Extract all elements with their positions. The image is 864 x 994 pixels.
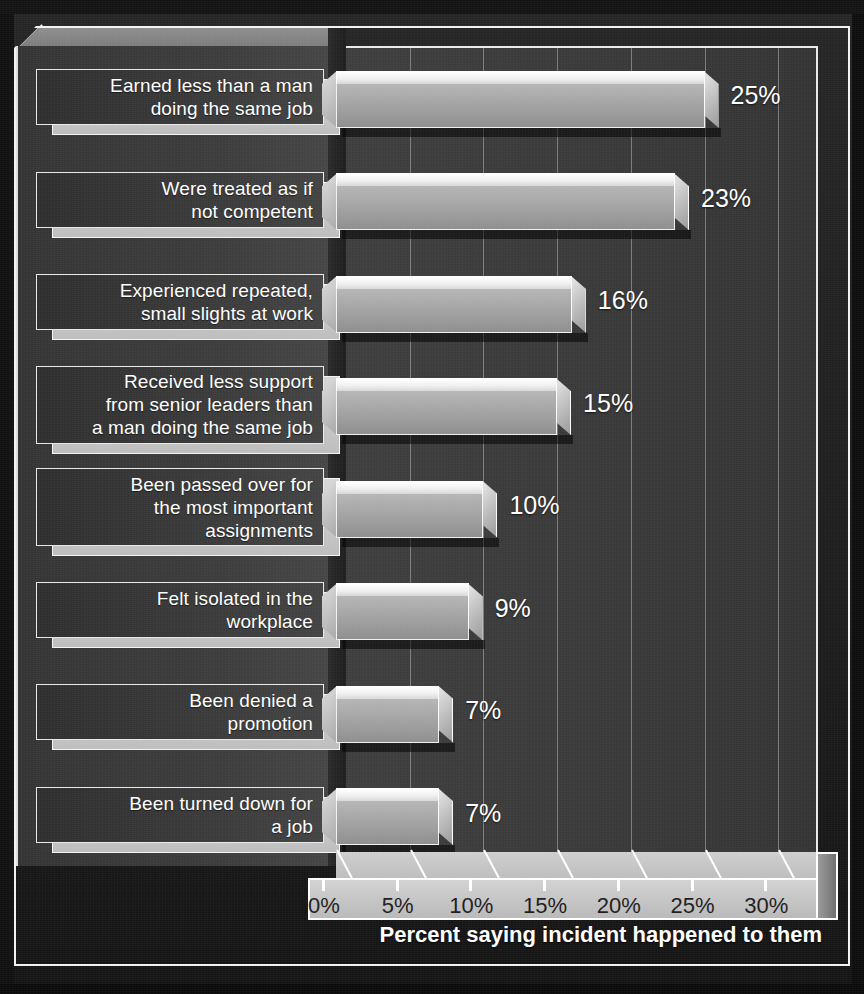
axis-floor-top-face [336, 852, 818, 880]
bar-shadow [342, 128, 721, 137]
category-label: Been turned down for a job [36, 787, 324, 843]
axis-tick-label-15: 15% [523, 893, 567, 919]
category-label-text: Were treated as if not competent [162, 177, 313, 223]
bar-shadow [342, 743, 455, 752]
bar-front-face [336, 596, 469, 640]
bar-front-face [336, 391, 557, 435]
bar-value-label: 10% [509, 491, 559, 520]
bar-end-cap [438, 788, 453, 845]
category-label: Felt isolated in the workplace [36, 582, 324, 638]
bar-1 [336, 71, 705, 128]
category-label-text: Received less support from senior leader… [92, 370, 313, 439]
bar-value-label: 7% [465, 799, 501, 828]
bar-shadow [342, 333, 588, 342]
bar-end-cap [468, 583, 483, 640]
axis-tick-label-30: 30% [744, 893, 788, 919]
category-label: Earned less than a man doing the same jo… [36, 69, 324, 125]
bar-top-face [336, 583, 469, 596]
bar-value-label: 15% [583, 389, 633, 418]
axis-tick-label-0: 0% [308, 893, 340, 919]
axis-tick-label-25: 25% [670, 893, 714, 919]
bar-top-face [336, 276, 572, 289]
category-label: Experienced repeated, small slights at w… [36, 274, 324, 330]
category-label: Received less support from senior leader… [36, 366, 324, 444]
bar-top-face [336, 173, 675, 186]
bar-8 [336, 788, 439, 845]
bar-shadow [342, 640, 485, 649]
category-label: Been passed over for the most important … [36, 468, 324, 546]
bar-5 [336, 481, 483, 538]
photo-edge-right [852, 0, 864, 994]
bar-shadow [342, 435, 573, 444]
bar-top-face [336, 788, 439, 801]
axis-tick-15 [543, 880, 546, 891]
axis-tick-5 [396, 880, 399, 891]
chart-rows: Earned less than a man doing the same jo… [0, 46, 864, 866]
axis-tick-20 [617, 880, 620, 891]
x-axis: 0%5%10%15%20%25%30% [308, 878, 818, 920]
bar-end-cap [482, 481, 497, 538]
bar-value-label: 16% [598, 286, 648, 315]
bar-7 [336, 686, 439, 743]
axis-caption: Percent saying incident happened to them [379, 922, 822, 948]
bar-top-face [336, 71, 705, 84]
category-label: Been denied a promotion [36, 684, 324, 740]
bar-top-face [336, 481, 483, 494]
bar-top-face [336, 378, 557, 391]
bar-6 [336, 583, 469, 640]
bar-end-cap [704, 71, 719, 128]
axis-tick-25 [691, 880, 694, 891]
bar-front-face [336, 186, 675, 230]
bar-value-label: 23% [701, 184, 751, 213]
bar-front-face [336, 801, 439, 845]
category-label-text: Been passed over for the most important … [130, 473, 313, 542]
bar-value-label: 7% [465, 696, 501, 725]
bar-3 [336, 276, 572, 333]
photo-edge-left [0, 0, 14, 994]
axis-tick-label-20: 20% [597, 893, 641, 919]
photo-edge-bottom [0, 984, 864, 994]
axis-floor-right-face [816, 852, 838, 920]
bar-2 [336, 173, 675, 230]
bar-front-face [336, 494, 483, 538]
axis-tick-10 [469, 880, 472, 891]
bar-shadow [342, 538, 499, 547]
bar-value-label: 9% [495, 594, 531, 623]
bar-top-face [336, 686, 439, 699]
axis-tick-30 [764, 880, 767, 891]
bar-shadow [342, 230, 691, 239]
bar-value-label: 25% [731, 81, 781, 110]
category-label-text: Earned less than a man doing the same jo… [110, 74, 313, 120]
axis-tick-0 [322, 880, 325, 891]
bar-4 [336, 378, 557, 435]
bar-front-face [336, 84, 705, 128]
axis-tick-label-10: 10% [449, 893, 493, 919]
bar-end-cap [438, 686, 453, 743]
category-label-text: Been denied a promotion [189, 689, 313, 735]
axis-tick-label-5: 5% [382, 893, 414, 919]
category-label-text: Been turned down for a job [129, 792, 313, 838]
bar-end-cap [674, 173, 689, 230]
category-label-text: Felt isolated in the workplace [157, 587, 313, 633]
chart-root: Earned less than a man doing the same jo… [0, 0, 864, 994]
photo-edge-top [0, 0, 864, 14]
category-label: Were treated as if not competent [36, 172, 324, 228]
category-label-text: Experienced repeated, small slights at w… [120, 279, 313, 325]
bar-end-cap [571, 276, 586, 333]
bar-front-face [336, 699, 439, 743]
bar-front-face [336, 289, 572, 333]
bar-end-cap [556, 378, 571, 435]
